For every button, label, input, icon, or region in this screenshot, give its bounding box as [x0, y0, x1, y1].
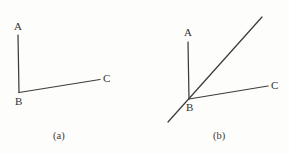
- panel-b-point-label-B: B: [186, 102, 193, 113]
- panel-b-caption: (b): [213, 131, 225, 142]
- figure-sheet: A B C (a) A B C (b): [0, 0, 289, 154]
- figure-drawing-canvas: [0, 0, 289, 154]
- panel-b-geometry: [168, 17, 268, 122]
- panel-b-transversal-line: [168, 17, 262, 122]
- panel-a-point-label-A: A: [14, 21, 22, 32]
- panel-a-point-label-C: C: [103, 73, 110, 84]
- panel-b-segment-BA: [188, 42, 189, 99]
- panel-a-geometry: [18, 35, 100, 93]
- panel-a-segment-BA: [18, 35, 19, 93]
- panel-b-segment-BC: [189, 86, 268, 99]
- panel-b-point-label-A: A: [184, 27, 192, 38]
- panel-a-caption: (a): [53, 131, 65, 142]
- panel-a-point-label-B: B: [15, 96, 22, 107]
- panel-a-segment-BC: [19, 80, 100, 93]
- panel-b-point-label-C: C: [271, 80, 278, 91]
